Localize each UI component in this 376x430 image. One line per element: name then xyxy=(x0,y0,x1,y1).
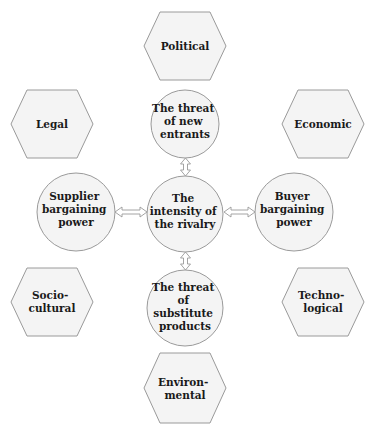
label-rivalry-3: the rivalry xyxy=(155,218,217,230)
label-technological-2: logical xyxy=(303,302,343,314)
hexagon-technological: Techno- logical xyxy=(282,268,364,336)
label-supplier-3: power xyxy=(58,216,94,228)
hexagon-environmental: Environ- mental xyxy=(144,353,226,423)
label-new-entrants-2: of new xyxy=(164,115,203,127)
label-rivalry-1: The xyxy=(172,192,194,204)
arrow-rivalry-buyer xyxy=(224,207,255,217)
circle-buyer-bargaining-power: Buyer bargaining power xyxy=(255,173,333,251)
label-environmental-1: Environ- xyxy=(158,376,208,388)
label-new-entrants-1: The threat xyxy=(152,102,214,114)
arrow-new-entrants-rivalry xyxy=(181,158,191,176)
circle-new-entrants: The threat of new entrants xyxy=(151,90,219,158)
svg-text:The threat of subs: The threat of substitute products xyxy=(152,281,218,332)
label-supplier-1: Supplier xyxy=(49,190,100,202)
label-substitutes-1: The threat xyxy=(152,281,214,293)
label-rivalry-2: intensity of xyxy=(150,205,218,217)
pestel-five-forces-diagram: Political Legal Economic Socio- cultural… xyxy=(0,0,376,430)
label-socio-cultural-2: cultural xyxy=(29,302,76,314)
label-substitutes-3: substitute xyxy=(153,307,213,319)
label-buyer-1: Buyer xyxy=(275,190,310,202)
circle-substitutes: The threat of substitute products xyxy=(147,270,223,346)
label-supplier-2: bargaining xyxy=(42,203,107,215)
label-technological-1: Techno- xyxy=(298,289,344,301)
svg-text:Economic: Economic xyxy=(294,118,352,130)
hexagon-socio-cultural: Socio- cultural xyxy=(11,268,93,336)
arrow-supplier-rivalry xyxy=(115,207,147,217)
svg-text:Techno- logical: Techno- logical xyxy=(298,289,348,314)
label-environmental-2: mental xyxy=(164,389,205,401)
label-substitutes-2: of xyxy=(177,294,190,306)
hexagon-political: Political xyxy=(144,12,226,80)
label-buyer-3: power xyxy=(276,216,312,228)
label-socio-cultural-1: Socio- xyxy=(32,289,68,301)
circle-supplier-bargaining-power: Supplier bargaining power xyxy=(37,173,115,251)
svg-text:Political: Political xyxy=(161,40,210,52)
hexagon-economic: Economic xyxy=(282,90,364,158)
svg-text:Legal: Legal xyxy=(36,118,68,130)
label-political: Political xyxy=(161,40,210,52)
arrow-rivalry-substitutes xyxy=(181,252,191,270)
label-buyer-2: bargaining xyxy=(260,203,325,215)
svg-text:Socio- cultural: Socio- cultural xyxy=(29,289,76,314)
hexagon-legal: Legal xyxy=(11,90,93,158)
label-new-entrants-3: entrants xyxy=(160,128,210,140)
label-economic: Economic xyxy=(294,118,352,130)
circle-rivalry: The intensity of the rivalry xyxy=(147,176,223,252)
svg-text:Environ- mental: Environ- mental xyxy=(158,376,212,401)
label-substitutes-4: products xyxy=(159,320,211,332)
label-legal: Legal xyxy=(36,118,68,130)
